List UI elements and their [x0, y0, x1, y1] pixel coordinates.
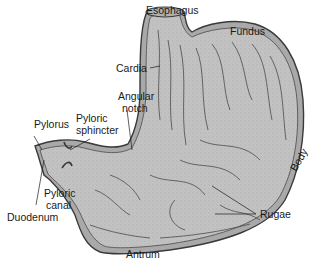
label-cardia: Cardia — [116, 62, 147, 74]
label-fundus: Fundus — [230, 25, 265, 37]
label-esophagus: Esophagus — [146, 4, 199, 16]
label-pyloric-canal-line2: canal — [46, 199, 71, 211]
label-angular-notch-line2: notch — [122, 102, 148, 114]
label-angular-notch-line1: Angular — [118, 90, 155, 102]
label-pylorus: Pylorus — [34, 118, 69, 130]
label-pyloric-canal-line1: Pyloric — [44, 187, 76, 199]
label-antrum: Antrum — [126, 248, 160, 260]
stomach-diagram: Esophagus Fundus Cardia Angular notch Py… — [0, 0, 315, 268]
label-pyloric-sphincter-line2: sphincter — [76, 124, 119, 136]
label-duodenum: Duodenum — [7, 211, 59, 223]
label-pyloric-sphincter-line1: Pyloric — [76, 112, 108, 124]
label-rugae: Rugae — [260, 208, 291, 220]
